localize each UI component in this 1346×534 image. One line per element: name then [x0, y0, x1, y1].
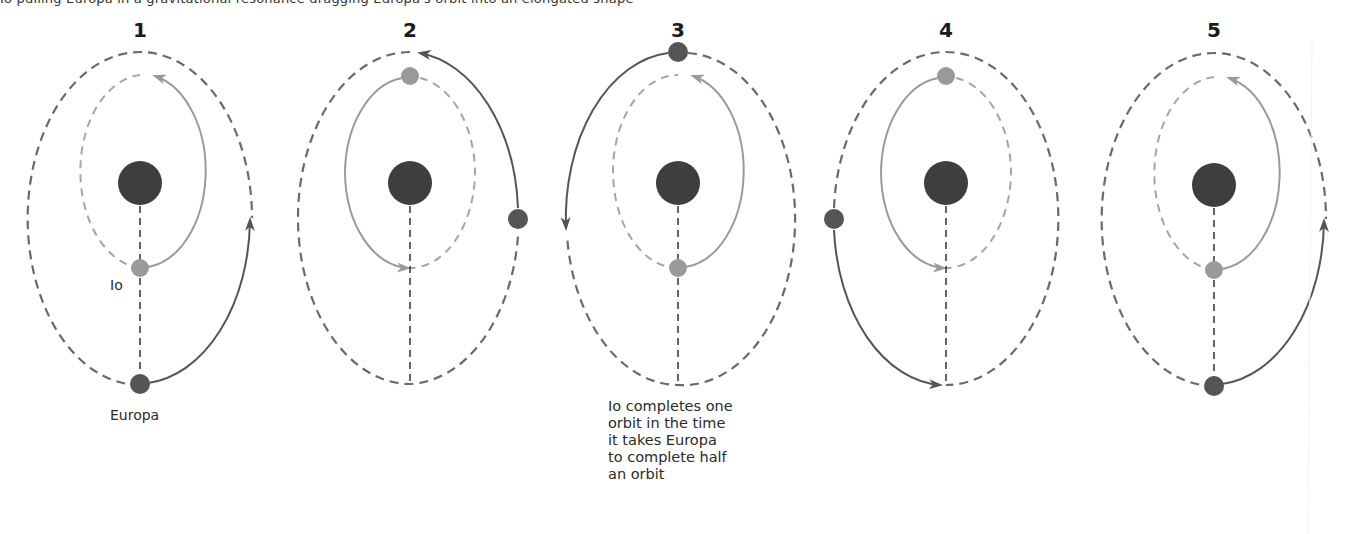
jupiter-icon	[118, 161, 162, 205]
europa-orbit-dashed	[298, 52, 518, 384]
europa-label: Europa	[110, 407, 159, 423]
caption-line: an orbit	[608, 466, 778, 483]
panel-number-1: 1	[133, 18, 147, 42]
resonance-caption: Io completes one orbit in the time it ta…	[608, 398, 778, 483]
caption-line: to complete half	[608, 449, 778, 466]
jupiter-icon	[656, 161, 700, 205]
jupiter-icon	[388, 161, 432, 205]
caption-line: it takes Europa	[608, 432, 778, 449]
panel-number-5: 5	[1207, 18, 1221, 42]
europa-moon-icon	[668, 42, 688, 62]
jupiter-icon	[924, 161, 968, 205]
io-moon-icon	[401, 67, 419, 85]
europa-motion-arrow	[148, 220, 250, 383]
europa-motion-arrow	[1222, 221, 1324, 384]
caption-line: Io completes one	[608, 398, 778, 415]
europa-motion-arrow	[834, 230, 940, 385]
jupiter-icon	[1192, 163, 1236, 207]
panel-number-4: 4	[939, 18, 953, 42]
io-moon-icon	[937, 67, 955, 85]
io-moon-icon	[131, 259, 149, 277]
europa-moon-icon	[1204, 376, 1224, 396]
europa-orbit-dashed	[567, 53, 795, 385]
europa-moon-icon	[508, 209, 528, 229]
europa-moon-icon	[824, 209, 844, 229]
io-moon-icon	[669, 259, 687, 277]
io-moon-icon	[1205, 261, 1223, 279]
caption-line: orbit in the time	[608, 415, 778, 432]
panel-1: 1 Io Europa	[28, 18, 252, 423]
panel-2: 2	[298, 18, 528, 384]
europa-moon-icon	[130, 374, 150, 394]
io-label: Io	[110, 277, 123, 293]
panel-number-2: 2	[403, 18, 417, 42]
panel-4: 4	[824, 18, 1058, 385]
panel-3: 3	[566, 18, 795, 385]
panel-number-3: 3	[671, 18, 685, 42]
scan-edge-divider	[1308, 40, 1312, 534]
panel-5: 5	[1102, 18, 1326, 396]
